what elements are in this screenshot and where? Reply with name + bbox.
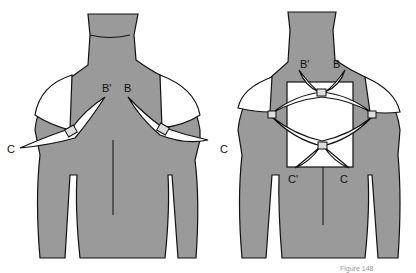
right-shoulder-left [238, 77, 272, 112]
label-b-prime: B' [102, 82, 111, 94]
label-c: C [340, 173, 348, 185]
label-b: B [333, 58, 340, 70]
right-knot-right [368, 111, 376, 118]
right-knot-left [268, 111, 276, 118]
right-shoulder-right [365, 77, 400, 113]
right-knot-bottom [318, 142, 327, 149]
right-figure: B' B C' C Figure 148 [238, 12, 400, 273]
label-c-left: C [7, 143, 15, 155]
right-knot-top [317, 89, 326, 96]
bandage-diagram: B' B C C B' B C' C Figure 148 [0, 0, 416, 273]
left-figure: B' B C C [7, 14, 228, 258]
figure-caption: Figure 148 [340, 265, 374, 273]
label-b: B [124, 82, 131, 94]
label-c-right: C [220, 143, 228, 155]
label-c-prime: C' [288, 173, 298, 185]
label-b-prime: B' [300, 58, 309, 70]
